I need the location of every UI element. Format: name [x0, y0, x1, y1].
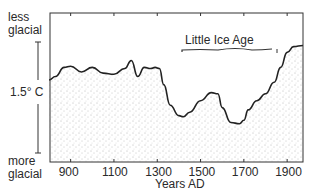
x-tick-label: 1700 — [232, 166, 259, 179]
little-ice-age-bracket — [182, 49, 277, 54]
x-axis-label: Years AD — [155, 178, 205, 191]
chart-canvas — [0, 0, 310, 192]
y-label-top: lessglacial — [8, 11, 42, 37]
x-tick-label: 1900 — [275, 166, 302, 179]
x-tick-label: 1300 — [145, 166, 172, 179]
scale-bar-label: 1.5° C — [10, 86, 43, 99]
x-tick-label: 1500 — [189, 166, 216, 179]
y-label-bottom: moreglacial — [8, 155, 42, 181]
x-tick-label: 900 — [59, 166, 79, 179]
data-area — [49, 46, 303, 163]
annotation-little-ice-age: Little Ice Age — [185, 34, 254, 47]
x-tick-label: 1100 — [102, 166, 128, 179]
